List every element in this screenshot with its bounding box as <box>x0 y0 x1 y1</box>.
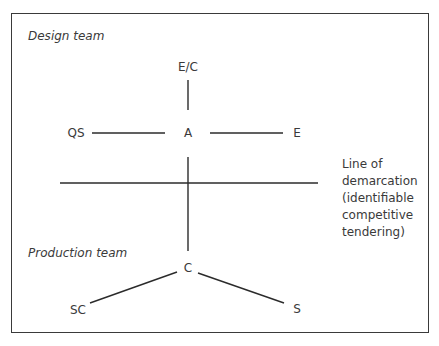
note-line: competitive <box>342 207 418 224</box>
edge-c-sc <box>90 272 177 303</box>
note-line: tendering) <box>342 224 418 241</box>
note-line: (identifiable <box>342 190 418 207</box>
node-c: C <box>184 261 192 275</box>
node-a: A <box>184 126 192 140</box>
note-line: Line of <box>342 156 418 173</box>
node-s: S <box>293 302 301 316</box>
note-line: demarcation <box>342 173 418 190</box>
node-qs: QS <box>67 126 84 140</box>
node-e: E <box>293 126 301 140</box>
node-ec: E/C <box>178 60 198 74</box>
demarcation-note: Line of demarcation (identifiable compet… <box>342 156 418 241</box>
node-sc: SC <box>70 303 86 317</box>
production-team-label: Production team <box>28 246 127 260</box>
edge-c-s <box>198 273 284 303</box>
design-team-label: Design team <box>28 29 104 43</box>
